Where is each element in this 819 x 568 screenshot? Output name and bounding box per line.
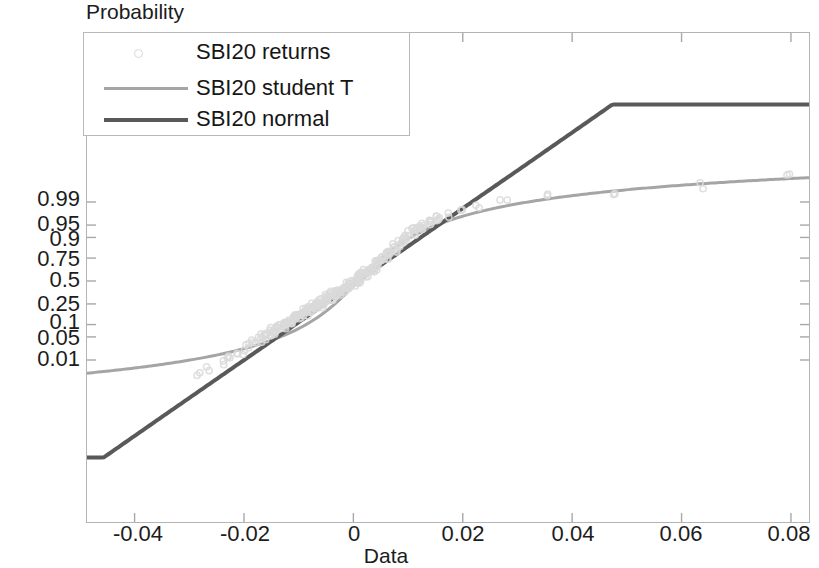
legend-label-returns: SBI20 returns <box>196 40 331 64</box>
y-axis-title: Probability <box>86 1 184 23</box>
y-tick-label-05: 0.5 <box>49 269 80 291</box>
legend-label-student-t: SBI20 student T <box>196 76 353 100</box>
series-normal <box>87 104 809 457</box>
legend-sample-student-t <box>104 81 188 95</box>
legend-box: SBI20 returns SBI20 student T SBI20 norm… <box>83 32 410 136</box>
x-tick-label--002: -0.02 <box>220 523 270 545</box>
x-tick-label-0: 0 <box>348 523 360 545</box>
series-returns-points <box>194 171 793 379</box>
line-sample-icon <box>104 118 188 122</box>
x-tick-label-008: 0.08 <box>768 523 811 545</box>
x-tick-label-006: 0.06 <box>660 523 703 545</box>
legend-sample-normal <box>104 112 188 126</box>
legend-label-normal: SBI20 normal <box>196 107 329 131</box>
x-tick-label-002: 0.02 <box>442 523 485 545</box>
series-student-t <box>87 178 809 374</box>
x-axis-title: Data <box>0 544 772 567</box>
x-tick-label--004: -0.04 <box>113 523 163 545</box>
probability-plot-figure: Probability 0.99 0.95 0.9 0.75 0.5 0.25 … <box>0 0 819 568</box>
y-tick-label-099: 0.99 <box>37 188 80 210</box>
circle-marker-icon <box>134 49 143 58</box>
legend-sample-returns <box>104 45 188 59</box>
legend-entry-normal: SBI20 normal <box>84 104 409 134</box>
line-sample-icon <box>104 87 188 90</box>
legend-entry-student-t: SBI20 student T <box>84 73 409 103</box>
y-tick-label-001: 0.01 <box>37 348 80 370</box>
legend-entry-returns: SBI20 returns <box>84 37 409 67</box>
x-tick-label-004: 0.04 <box>552 523 595 545</box>
